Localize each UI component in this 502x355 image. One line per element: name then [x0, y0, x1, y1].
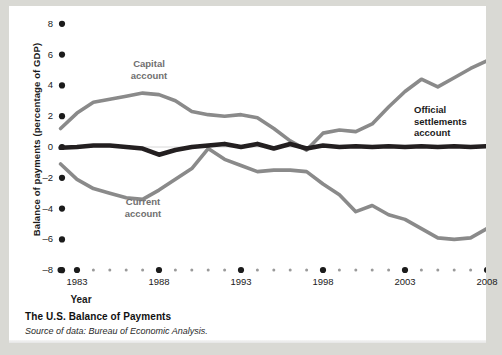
y-tick-label: –2 — [31, 172, 53, 183]
y-tick-label: 6 — [31, 49, 53, 60]
x-tick-label: 1988 — [139, 276, 179, 287]
y-tick-dot — [59, 82, 65, 88]
x-tick-dot-minor — [174, 269, 177, 272]
chart-plot-area: Balance of payments (percentage of GDP) … — [9, 6, 486, 296]
x-tick-dot-minor — [453, 269, 456, 272]
x-tick-dot-minor — [436, 269, 439, 272]
x-tick-dot-major — [156, 267, 162, 273]
x-tick-label: 2003 — [385, 276, 425, 287]
y-tick-label: 0 — [31, 141, 53, 152]
x-tick-dot-major — [74, 267, 80, 273]
x-tick-dot-origin — [58, 267, 64, 273]
x-tick-label: 1998 — [303, 276, 343, 287]
x-tick-dot-minor — [223, 269, 226, 272]
series-label-current-account: Current account — [113, 196, 173, 219]
x-tick-dot-minor — [92, 269, 95, 272]
x-tick-dot-minor — [289, 269, 292, 272]
y-tick-label: –6 — [31, 233, 53, 244]
x-tick-dot-major — [402, 267, 408, 273]
x-tick-dot-minor — [190, 269, 193, 272]
y-tick-label: –4 — [31, 203, 53, 214]
x-tick-dot-minor — [338, 269, 341, 272]
x-tick-dot-minor — [108, 269, 111, 272]
x-tick-dot-minor — [141, 269, 144, 272]
figure-caption-source: Source of data: Bureau of Economic Analy… — [25, 326, 208, 336]
y-tick-dot — [59, 52, 65, 58]
x-tick-label: 1993 — [221, 276, 261, 287]
series-label-capital-account: Capital account — [119, 58, 179, 81]
x-tick-dot-minor — [305, 269, 308, 272]
x-tick-dot-minor — [420, 269, 423, 272]
x-tick-dot-minor — [207, 269, 210, 272]
x-tick-label: 2008 — [467, 276, 502, 287]
y-tick-label: –8 — [31, 264, 53, 275]
x-tick-dot-minor — [125, 269, 128, 272]
x-tick-dot-minor — [387, 269, 390, 272]
chart-svg — [9, 6, 486, 296]
series-label-official-settlements-account: Official settlements account — [414, 104, 486, 139]
x-tick-dot-major — [238, 267, 244, 273]
figure-caption-title: The U.S. Balance of Payments — [25, 311, 171, 322]
x-axis-tick-dots — [58, 267, 487, 273]
y-tick-dot — [59, 113, 65, 119]
series-line-official-settlements-account — [61, 144, 486, 155]
x-tick-dot-major — [484, 267, 486, 273]
x-tick-dot-minor — [256, 269, 259, 272]
y-tick-dot — [59, 236, 65, 242]
y-tick-dot — [59, 21, 65, 27]
x-tick-dot-minor — [371, 269, 374, 272]
x-tick-dot-minor — [469, 269, 472, 272]
series-line-current-account — [61, 149, 486, 240]
x-tick-dot-minor — [354, 269, 357, 272]
x-tick-dot-major — [320, 267, 326, 273]
x-tick-dot-minor — [272, 269, 275, 272]
y-tick-label: 2 — [31, 110, 53, 121]
figure-card: Balance of payments (percentage of GDP) … — [9, 6, 486, 343]
y-tick-label: 8 — [31, 18, 53, 29]
y-tick-dot — [59, 175, 65, 181]
y-tick-dot — [59, 206, 65, 212]
y-tick-label: 4 — [31, 79, 53, 90]
x-tick-label: 1983 — [57, 276, 97, 287]
x-axis-label: Year — [61, 294, 101, 305]
